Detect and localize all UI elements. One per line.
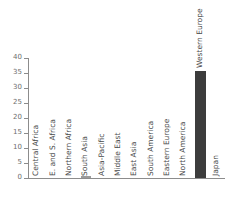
y-tick-label: 25 [0,99,22,106]
y-tick-mark [24,148,28,149]
x-axis-line [28,178,225,179]
category-label-holder: East Asia [138,175,139,176]
y-tick-mark [24,118,28,119]
category-label: Northern Africa [65,119,73,176]
y-tick-mark [24,103,28,104]
category-label: Western Europe [196,8,204,68]
category-label: South America [147,121,155,176]
category-label-holder: Middle East [122,175,123,176]
y-tick-mark [24,58,28,59]
bars-layer [29,58,225,178]
category-label: Japan [212,155,220,176]
category-label-holder: Asia-Pacific [106,175,107,176]
y-tick-mark [24,163,28,164]
category-label-holder: Western Europe [204,67,205,68]
bar[interactable] [81,176,91,178]
y-tick-label: 10 [0,144,22,151]
category-label-holder: Northern Africa [73,175,74,176]
category-label-holder: Japan [220,175,221,176]
category-label-holder: South America [155,175,156,176]
chart-figure: 0510152025303540 Central AfricaE. and S.… [0,0,237,197]
bar[interactable] [195,71,205,178]
category-label: Central Africa [32,125,40,176]
y-tick-mark [24,178,28,179]
category-label: East Asia [130,142,138,176]
category-label: E. and S. Africa [49,119,57,176]
plot-area: 0510152025303540 Central AfricaE. and S.… [0,0,237,197]
category-label: Asia-Pacific [98,134,106,176]
category-label: Middle East [114,133,122,176]
category-label-holder: South Asia [89,175,90,176]
category-label-holder: North America [187,175,188,176]
y-tick-mark [24,133,28,134]
y-tick-label: 20 [0,114,22,121]
category-label: North America [179,122,187,176]
y-tick-mark [24,73,28,74]
category-label-holder: Eastern Europe [171,175,172,176]
y-tick-label: 40 [0,54,22,61]
category-label-holder: E. and S. Africa [57,175,58,176]
category-label: South Asia [81,136,89,176]
category-label-holder: Central Africa [40,175,41,176]
y-tick-label: 35 [0,69,22,76]
category-label: Eastern Europe [163,119,171,176]
y-tick-label: 5 [0,159,22,166]
y-tick-label: 15 [0,129,22,136]
y-tick-label: 30 [0,84,22,91]
y-tick-label: 0 [0,174,22,181]
y-tick-mark [24,88,28,89]
